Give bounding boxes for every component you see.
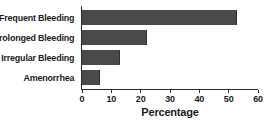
category-label: Amenorrhea	[5, 68, 78, 88]
bar	[82, 10, 237, 25]
tick-label: 50	[214, 94, 244, 104]
bar	[82, 30, 147, 45]
x-tick: 0	[67, 90, 97, 104]
tick-mark	[140, 90, 141, 93]
y-axis-line	[81, 6, 82, 89]
category-label: Irregular Bleeding	[5, 48, 78, 68]
tick-mark	[82, 90, 83, 93]
bar-slot	[82, 27, 258, 47]
tick-label: 40	[184, 94, 214, 104]
bar	[82, 50, 120, 65]
x-tick: 40	[184, 90, 214, 104]
tick-label: 0	[67, 94, 97, 104]
x-tick: 20	[126, 90, 156, 104]
tick-label: 30	[155, 94, 185, 104]
tick-mark	[228, 90, 229, 93]
bar-slot	[82, 68, 258, 88]
tick-label: 10	[96, 94, 126, 104]
bar-chart: Frequent Bleeding Prolonged Bleeding Irr…	[0, 0, 276, 124]
tick-mark	[170, 90, 171, 93]
plot-area	[82, 7, 258, 88]
category-label: Prolonged Bleeding	[5, 27, 78, 47]
bar	[82, 70, 100, 85]
bar-series	[82, 7, 258, 88]
tick-mark	[111, 90, 112, 93]
category-label: Frequent Bleeding	[5, 7, 78, 27]
category-axis: Frequent Bleeding Prolonged Bleeding Irr…	[0, 7, 78, 88]
bar-slot	[82, 48, 258, 68]
bar-slot	[82, 7, 258, 27]
x-tick: 30	[155, 90, 185, 104]
tick-label: 20	[126, 94, 156, 104]
x-tick: 50	[214, 90, 244, 104]
x-tick: 10	[96, 90, 126, 104]
x-axis-title: Percentage	[82, 106, 258, 118]
tick-label: 60	[243, 94, 273, 104]
x-tick: 60	[243, 90, 273, 104]
tick-mark	[199, 90, 200, 93]
tick-mark	[258, 90, 259, 93]
